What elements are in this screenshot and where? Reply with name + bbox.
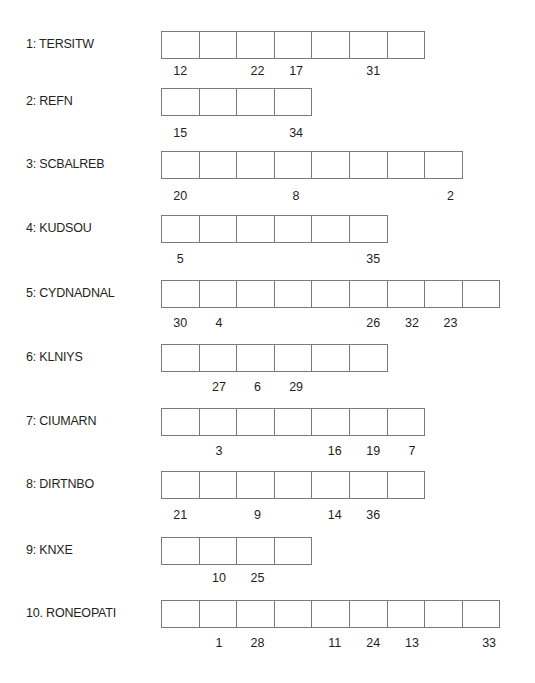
letter-index-number: 7 [408, 444, 415, 458]
letter-index-number: 28 [251, 636, 265, 650]
letter-index-number: 19 [366, 444, 380, 458]
letter-index-number: 14 [328, 508, 342, 522]
letter-box[interactable] [274, 151, 313, 179]
letter-box[interactable] [311, 215, 350, 243]
letter-index-number: 1 [215, 636, 222, 650]
letter-box[interactable] [349, 280, 388, 308]
letter-box[interactable] [274, 537, 313, 565]
letter-box[interactable] [274, 280, 313, 308]
letter-box[interactable] [387, 600, 426, 628]
letter-index-number: 12 [173, 64, 187, 78]
letter-box[interactable] [199, 344, 238, 372]
letter-box[interactable] [311, 471, 350, 499]
letter-index-number: 2 [447, 189, 454, 203]
letter-box[interactable] [199, 88, 238, 116]
letter-index-number: 36 [366, 508, 380, 522]
scrambled-word-label: 7: CIUMARN [26, 414, 96, 428]
letter-box[interactable] [349, 408, 388, 436]
letter-box[interactable] [236, 344, 275, 372]
letter-box[interactable] [349, 600, 388, 628]
letter-index-number: 26 [366, 316, 380, 330]
letter-index-number: 22 [251, 64, 265, 78]
letter-box[interactable] [349, 215, 388, 243]
letter-box[interactable] [311, 151, 350, 179]
letter-box[interactable] [349, 31, 388, 59]
letter-box[interactable] [236, 600, 275, 628]
letter-box[interactable] [387, 151, 426, 179]
letter-index-number: 10 [212, 571, 226, 585]
letter-box[interactable] [161, 537, 200, 565]
letter-box[interactable] [387, 471, 426, 499]
letter-box[interactable] [199, 215, 238, 243]
letter-box[interactable] [349, 151, 388, 179]
scrambled-word-label: 5: CYDNADNAL [26, 286, 115, 300]
letter-box[interactable] [424, 280, 463, 308]
letter-index-number: 4 [215, 316, 222, 330]
letter-box[interactable] [236, 88, 275, 116]
letter-index-number: 13 [405, 636, 419, 650]
letter-box[interactable] [161, 88, 200, 116]
letter-box[interactable] [349, 471, 388, 499]
letter-box[interactable] [274, 471, 313, 499]
scrambled-word-label: 10. RONEOPATI [26, 606, 116, 620]
letter-box[interactable] [311, 31, 350, 59]
letter-index-number: 5 [177, 252, 184, 266]
letter-box[interactable] [274, 31, 313, 59]
scrambled-word-label: 4: KUDSOU [26, 221, 92, 235]
answer-boxes [161, 408, 425, 436]
letter-box[interactable] [462, 280, 501, 308]
letter-box[interactable] [236, 31, 275, 59]
answer-boxes [161, 600, 500, 628]
letter-box[interactable] [199, 471, 238, 499]
letter-box[interactable] [424, 600, 463, 628]
letter-box[interactable] [161, 280, 200, 308]
letter-box[interactable] [311, 600, 350, 628]
letter-box[interactable] [199, 537, 238, 565]
letter-box[interactable] [274, 408, 313, 436]
letter-index-number: 3 [215, 444, 222, 458]
letter-box[interactable] [199, 408, 238, 436]
letter-box[interactable] [236, 471, 275, 499]
letter-index-number: 17 [289, 64, 303, 78]
letter-box[interactable] [424, 151, 463, 179]
letter-index-number: 21 [173, 508, 187, 522]
letter-index-number: 15 [173, 126, 187, 140]
scrambled-word-label: 9: KNXE [26, 543, 73, 557]
letter-box[interactable] [311, 344, 350, 372]
letter-index-number: 31 [366, 64, 380, 78]
letter-box[interactable] [236, 537, 275, 565]
letter-box[interactable] [311, 408, 350, 436]
letter-index-number: 11 [328, 636, 341, 650]
letter-box[interactable] [199, 31, 238, 59]
letter-box[interactable] [161, 31, 200, 59]
letter-box[interactable] [274, 600, 313, 628]
letter-box[interactable] [387, 408, 426, 436]
letter-box[interactable] [349, 344, 388, 372]
letter-index-number: 23 [444, 316, 458, 330]
letter-box[interactable] [236, 408, 275, 436]
answer-boxes [161, 471, 425, 499]
letter-box[interactable] [274, 215, 313, 243]
letter-box[interactable] [236, 280, 275, 308]
letter-box[interactable] [161, 151, 200, 179]
letter-box[interactable] [462, 600, 501, 628]
letter-box[interactable] [236, 151, 275, 179]
letter-box[interactable] [161, 215, 200, 243]
letter-index-number: 24 [366, 636, 380, 650]
answer-boxes [161, 88, 312, 116]
letter-index-number: 6 [254, 380, 261, 394]
letter-box[interactable] [236, 215, 275, 243]
letter-box[interactable] [311, 280, 350, 308]
letter-box[interactable] [274, 88, 313, 116]
letter-box[interactable] [387, 280, 426, 308]
letter-box[interactable] [199, 280, 238, 308]
letter-box[interactable] [161, 344, 200, 372]
letter-box[interactable] [161, 471, 200, 499]
letter-box[interactable] [161, 408, 200, 436]
letter-box[interactable] [199, 600, 238, 628]
letter-box[interactable] [387, 31, 426, 59]
letter-box[interactable] [161, 600, 200, 628]
letter-box[interactable] [274, 344, 313, 372]
letter-index-number: 33 [482, 636, 496, 650]
letter-box[interactable] [199, 151, 238, 179]
